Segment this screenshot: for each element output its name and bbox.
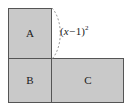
- expr-exponent: 2: [85, 24, 89, 32]
- region-a-label: A: [26, 27, 34, 39]
- expr-variable: x: [63, 25, 69, 37]
- dimension-arc: [52, 8, 60, 59]
- region-c-label: C: [84, 74, 91, 86]
- geometry-figure: A B C (x−1)2: [0, 0, 131, 112]
- expr-operator: −: [69, 25, 75, 37]
- figure-canvas: A B C (x−1)2: [0, 0, 131, 112]
- dimension-expression: (x−1)2: [60, 24, 89, 38]
- region-b-label: B: [26, 74, 33, 86]
